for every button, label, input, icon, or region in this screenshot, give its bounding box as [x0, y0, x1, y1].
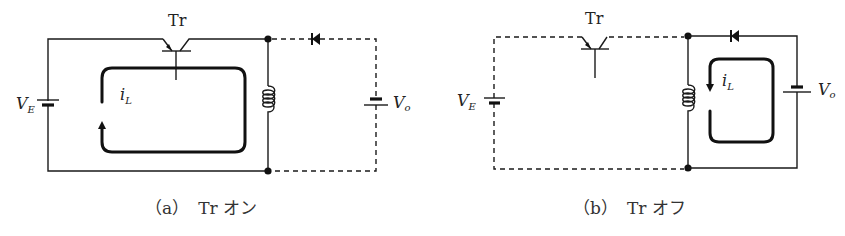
diode-icon — [312, 33, 320, 45]
battery-vo — [364, 99, 388, 105]
arrowhead-down-icon — [706, 84, 714, 92]
label-il: iL — [722, 71, 734, 92]
arrowhead-up-icon — [98, 121, 106, 129]
label-vo: Vo — [818, 80, 836, 100]
label-ve: VE — [16, 94, 36, 115]
current-loop-arrow — [102, 68, 245, 152]
wire-left-lower — [48, 105, 268, 171]
label-tr: Tr — [168, 11, 187, 30]
label-vo: Vo — [393, 93, 411, 113]
current-loop-arrow — [710, 59, 773, 142]
battery-vo — [783, 87, 811, 92]
circuit-diagram: VE Tr Vo iL （a） Tr オン — [0, 0, 845, 236]
caption-a: （a） Tr オン — [145, 198, 257, 218]
transistor-icon — [162, 39, 268, 80]
label-tr: Tr — [585, 9, 604, 28]
panel-b: VE Tr Vo iL （b） — [457, 9, 836, 218]
inductor-icon — [683, 85, 695, 168]
junction-dot — [264, 167, 271, 174]
inductor-icon — [263, 86, 275, 171]
panel-a: VE Tr Vo iL （a） Tr オン — [16, 11, 411, 218]
battery-ve — [484, 98, 505, 103]
diode-icon — [731, 30, 739, 42]
label-il: iL — [120, 85, 132, 106]
caption-b: （b） Tr オフ — [573, 198, 686, 218]
label-ve: VE — [457, 91, 477, 112]
transistor-icon — [581, 37, 609, 78]
junction-dot — [264, 35, 271, 42]
